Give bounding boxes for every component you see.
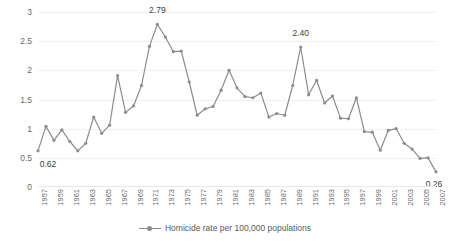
data-point-marker	[267, 115, 270, 118]
x-tick-label: 2007	[439, 189, 447, 206]
data-point-marker	[418, 157, 421, 160]
data-point-marker	[84, 142, 87, 145]
x-tick-label: 1975	[184, 189, 192, 206]
data-point-label: 0.26	[426, 180, 443, 189]
x-tick-label: 1979	[216, 189, 224, 206]
data-point-marker	[116, 74, 119, 77]
homicide-rate-line-chart: 00.511.522.53 0.622.792.400.26 195719591…	[0, 0, 450, 244]
x-tick-label: 1989	[296, 189, 304, 206]
data-point-marker	[52, 139, 55, 142]
chart-legend: Homicide rate per 100,000 populations	[0, 224, 450, 233]
data-point-marker	[371, 131, 374, 134]
x-tick-label: 1973	[168, 189, 176, 206]
data-point-marker	[403, 142, 406, 145]
data-point-marker	[291, 84, 294, 87]
y-tick-label: 0.5	[20, 154, 32, 163]
x-tick-label: 1993	[328, 189, 336, 206]
data-point-marker	[76, 149, 79, 152]
x-tick-label: 2005	[423, 189, 431, 206]
x-tick-label: 1991	[312, 189, 320, 206]
legend-marker-icon	[139, 224, 161, 232]
data-point-marker	[92, 115, 95, 118]
data-point-marker	[100, 132, 103, 135]
x-tick-label: 1971	[152, 189, 160, 206]
x-tick-label: 1983	[248, 189, 256, 206]
data-point-marker	[164, 35, 167, 38]
data-point-marker	[275, 112, 278, 115]
data-point-marker	[379, 149, 382, 152]
data-point-marker	[434, 170, 437, 173]
data-point-marker	[132, 104, 135, 107]
data-point-marker	[188, 80, 191, 83]
y-tick-label: 2.5	[20, 37, 32, 46]
x-axis-baseline	[38, 186, 436, 187]
data-point-marker	[363, 130, 366, 133]
data-point-marker	[60, 128, 63, 131]
data-point-marker	[299, 45, 302, 48]
data-point-marker	[283, 114, 286, 117]
data-point-marker	[395, 127, 398, 130]
x-tick-label: 2003	[407, 189, 415, 206]
data-point-marker	[196, 114, 199, 117]
x-tick-label: 1959	[57, 189, 65, 206]
data-point-marker	[108, 124, 111, 127]
x-tick-label: 1969	[137, 189, 145, 206]
plot-area: 0.622.792.400.26	[38, 12, 436, 187]
data-point-label: 0.62	[40, 160, 57, 169]
data-series-homicide-rate	[38, 12, 436, 187]
x-tick-label: 1977	[200, 189, 208, 206]
x-tick-label: 1981	[232, 189, 240, 206]
data-point-marker	[411, 147, 414, 150]
data-point-marker	[219, 89, 222, 92]
data-point-marker	[307, 93, 310, 96]
x-tick-label: 1957	[41, 189, 49, 206]
data-point-marker	[180, 49, 183, 52]
legend-label: Homicide rate per 100,000 populations	[165, 224, 311, 233]
x-tick-label: 2001	[391, 189, 399, 206]
data-point-marker	[387, 129, 390, 132]
x-axis: 1957195919611963196519671969197119731975…	[38, 189, 436, 223]
data-point-marker	[172, 50, 175, 53]
data-point-marker	[68, 140, 71, 143]
data-point-marker	[204, 107, 207, 110]
data-point-marker	[44, 125, 47, 128]
data-point-marker	[235, 86, 238, 89]
data-point-marker	[36, 149, 39, 152]
x-tick-label: 1963	[89, 189, 97, 206]
y-tick-label: 3	[27, 8, 32, 17]
data-point-marker	[323, 101, 326, 104]
y-tick-label: 0	[27, 183, 32, 192]
y-tick-label: 1.5	[20, 95, 32, 104]
x-tick-label: 1961	[73, 189, 81, 206]
data-point-label: 2.40	[292, 29, 309, 38]
data-point-marker	[227, 69, 230, 72]
data-point-marker	[259, 91, 262, 94]
data-point-marker	[339, 117, 342, 120]
x-tick-label: 1985	[264, 189, 272, 206]
series-line	[38, 24, 436, 172]
x-tick-label: 1995	[343, 189, 351, 206]
data-point-marker	[355, 96, 358, 99]
x-tick-label: 1967	[121, 189, 129, 206]
x-tick-label: 1987	[280, 189, 288, 206]
x-tick-label: 1965	[105, 189, 113, 206]
data-point-marker	[243, 95, 246, 98]
data-point-marker	[426, 156, 429, 159]
y-tick-label: 1	[27, 124, 32, 133]
data-point-marker	[251, 96, 254, 99]
x-tick-label: 1997	[359, 189, 367, 206]
data-point-marker	[148, 45, 151, 48]
data-point-marker	[315, 79, 318, 82]
x-tick-label: 1999	[375, 189, 383, 206]
data-point-marker	[212, 105, 215, 108]
data-point-label: 2.79	[149, 6, 166, 15]
data-point-marker	[156, 23, 159, 26]
data-point-marker	[124, 111, 127, 114]
y-tick-label: 2	[27, 66, 32, 75]
data-point-marker	[331, 94, 334, 97]
data-point-marker	[347, 117, 350, 120]
data-point-marker	[140, 84, 143, 87]
